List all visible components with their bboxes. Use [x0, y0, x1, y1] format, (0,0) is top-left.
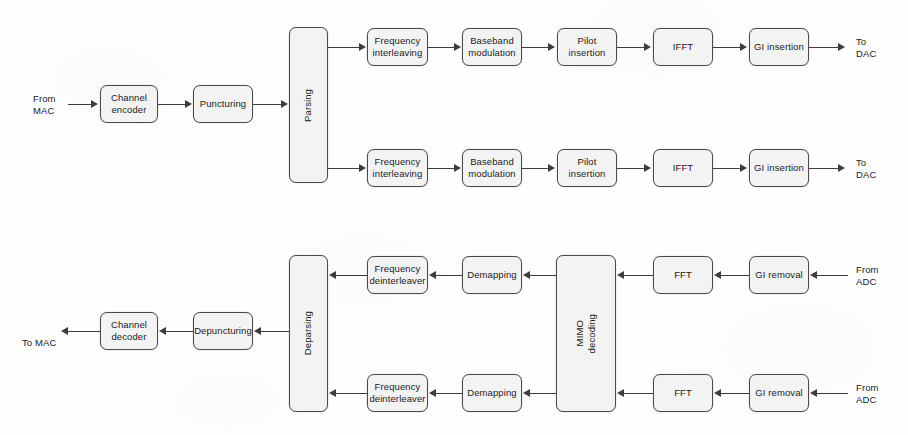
- wire-rx-bottom-fd-to-deparsing: [336, 393, 367, 394]
- arrowhead-tx-bottom-gi-to-dac: [838, 164, 845, 172]
- wire-tx-bottom-bm-to-pilot: [522, 168, 549, 169]
- tx-block-ifft-top-label: IFFT: [670, 41, 696, 53]
- tx-output-label-to-dac-bottom: To DAC: [856, 157, 876, 182]
- wire-tx-bottom-fi-to-bm: [428, 168, 455, 169]
- rx-block-frequency-deinterleaver-bottom[interactable]: Frequency deinterleaver: [367, 374, 428, 412]
- wire-rx-bottom-mimo-to-demapping: [530, 393, 556, 394]
- arrowhead-rx-top-demapping-to-fd: [429, 271, 436, 279]
- wire-tx-top-ifft-to-gi: [713, 47, 741, 48]
- tx-block-ifft-bottom[interactable]: IFFT: [653, 149, 713, 187]
- arrowhead-rx-bottom-mimo-to-demapping: [523, 389, 530, 397]
- tx-block-pilot-insertion-bottom[interactable]: Pilot insertion: [557, 149, 617, 187]
- arrowhead-tx-top-pilot-to-ifft: [644, 43, 651, 51]
- arrowhead-tx-bottom-pilot-to-ifft: [644, 164, 651, 172]
- arrowhead-tx-bottom-ifft-to-gi: [740, 164, 747, 172]
- wire-deparsing-to-depuncturing: [261, 331, 289, 332]
- tx-block-gi-insertion-top[interactable]: GI insertion: [749, 28, 809, 66]
- tx-block-pilot-insertion-top[interactable]: Pilot insertion: [557, 28, 617, 66]
- tx-block-puncturing[interactable]: Puncturing: [193, 85, 253, 123]
- tx-block-channel-encoder[interactable]: Channel encoder: [100, 85, 158, 123]
- rx-block-deparsing[interactable]: Deparsing: [289, 255, 328, 412]
- wire-rx-top-fd-to-deparsing: [336, 275, 367, 276]
- wire-rx-top-mimo-to-demapping: [530, 275, 556, 276]
- rx-block-gi-removal-bottom[interactable]: GI removal: [749, 374, 809, 412]
- rx-block-frequency-deinterleaver-bottom-label: Frequency deinterleaver: [366, 381, 428, 405]
- arrowhead-tx-bottom-fi-to-bm: [454, 164, 461, 172]
- tx-block-ifft-top[interactable]: IFFT: [653, 28, 713, 66]
- wire-rx-top-demapping-to-fd: [436, 275, 462, 276]
- wire-frommac-to-channel-encoder: [68, 104, 92, 105]
- wire-depuncturing-to-channel-decoder: [166, 331, 193, 332]
- arrowhead-rx-bottom-fft-to-mimo: [617, 389, 624, 397]
- arrowhead-tx-top-ifft-to-gi: [740, 43, 747, 51]
- rx-block-gi-removal-top-label: GI removal: [752, 269, 805, 281]
- rx-block-gi-removal-top[interactable]: GI removal: [749, 256, 809, 294]
- tx-block-frequency-interleaving-bottom[interactable]: Frequency interleaving: [367, 149, 428, 187]
- arrowhead-rx-top-gi-to-fft: [714, 271, 721, 279]
- arrowhead-frommac-to-channel-encoder: [91, 100, 98, 108]
- rx-block-demapping-top-label: Demapping: [464, 269, 520, 281]
- tx-block-baseband-modulation-top[interactable]: Baseband modulation: [462, 28, 522, 66]
- rx-block-fft-top[interactable]: FFT: [653, 256, 713, 294]
- block-diagram-canvas: From MAC Channel encoder Puncturing Pars…: [0, 0, 908, 435]
- arrowhead-depuncturing-to-channel-decoder: [159, 327, 166, 335]
- rx-block-frequency-deinterleaver-top[interactable]: Frequency deinterleaver: [367, 256, 428, 294]
- wire-parsing-to-freq-interleaving-bottom: [328, 168, 360, 169]
- wire-channel-decoder-to-tomac: [68, 331, 100, 332]
- wire-tx-bottom-ifft-to-gi: [713, 168, 741, 169]
- arrowhead-rx-top-fft-to-mimo: [617, 271, 624, 279]
- tx-block-baseband-modulation-bottom[interactable]: Baseband modulation: [462, 149, 522, 187]
- wire-tx-bottom-gi-to-dac: [809, 168, 841, 169]
- tx-block-channel-encoder-label: Channel encoder: [108, 92, 150, 116]
- rx-block-demapping-top[interactable]: Demapping: [462, 256, 522, 294]
- arrowhead-deparsing-to-depuncturing: [254, 327, 261, 335]
- wire-rx-bottom-demapping-to-fd: [436, 393, 462, 394]
- arrowhead-tx-bottom-bm-to-pilot: [548, 164, 555, 172]
- arrowhead-tx-top-fi-to-bm: [454, 43, 461, 51]
- arrowhead-rx-top-mimo-to-demapping: [523, 271, 530, 279]
- arrowhead-tx-top-gi-to-dac: [838, 43, 845, 51]
- tx-block-parsing[interactable]: Parsing: [289, 27, 328, 183]
- arrowhead-rx-bottom-gi-to-fft: [714, 389, 721, 397]
- rx-block-demapping-bottom[interactable]: Demapping: [462, 374, 522, 412]
- wire-tx-top-pilot-to-ifft: [617, 47, 645, 48]
- rx-block-channel-decoder[interactable]: Channel decoder: [100, 312, 158, 350]
- wire-rx-top-fft-to-mimo: [624, 275, 653, 276]
- tx-block-frequency-interleaving-bottom-label: Frequency interleaving: [370, 156, 426, 180]
- wire-parsing-to-freq-interleaving-top: [328, 47, 360, 48]
- rx-block-gi-removal-bottom-label: GI removal: [752, 387, 805, 399]
- tx-block-baseband-modulation-top-label: Baseband modulation: [465, 35, 518, 59]
- rx-block-depuncturing-label: Depuncturing: [191, 325, 255, 337]
- tx-block-frequency-interleaving-top-label: Frequency interleaving: [370, 35, 426, 59]
- rx-block-mimo-decoding-label: MIMO decoding: [574, 311, 598, 356]
- arrowhead-rx-top-fd-to-deparsing: [329, 271, 336, 279]
- rx-output-label-to-mac: To MAC: [22, 337, 56, 349]
- rx-block-depuncturing[interactable]: Depuncturing: [193, 312, 253, 350]
- arrowhead-rx-bottom-demapping-to-fd: [429, 389, 436, 397]
- rx-input-label-from-adc-bottom: From ADC: [856, 382, 879, 407]
- wire-tx-bottom-pilot-to-ifft: [617, 168, 645, 169]
- wire-puncturing-to-parsing: [253, 104, 282, 105]
- wire-tx-top-fi-to-bm: [428, 47, 455, 48]
- tx-block-baseband-modulation-bottom-label: Baseband modulation: [465, 156, 518, 180]
- arrowhead-parsing-to-freq-interleaving-top: [359, 43, 366, 51]
- wire-tx-top-bm-to-pilot: [522, 47, 549, 48]
- rx-block-frequency-deinterleaver-top-label: Frequency deinterleaver: [366, 263, 428, 287]
- tx-block-parsing-label: Parsing: [302, 86, 314, 125]
- wire-tx-top-gi-to-dac: [809, 47, 841, 48]
- tx-block-ifft-bottom-label: IFFT: [670, 162, 696, 174]
- arrowhead-puncturing-to-parsing: [281, 100, 288, 108]
- wire-rx-bottom-adc-to-gi: [817, 393, 848, 394]
- tx-block-pilot-insertion-top-label: Pilot insertion: [566, 35, 609, 59]
- rx-block-fft-top-label: FFT: [671, 269, 695, 281]
- tx-block-puncturing-label: Puncturing: [197, 98, 249, 110]
- wire-rx-top-gi-to-fft: [721, 275, 749, 276]
- arrowhead-channel-decoder-to-tomac: [61, 327, 68, 335]
- rx-block-fft-bottom[interactable]: FFT: [653, 374, 713, 412]
- tx-block-frequency-interleaving-top[interactable]: Frequency interleaving: [367, 28, 428, 66]
- wire-rx-top-adc-to-gi: [817, 275, 848, 276]
- rx-block-mimo-decoding[interactable]: MIMO decoding: [556, 255, 616, 412]
- arrowhead-channel-encoder-to-puncturing: [185, 100, 192, 108]
- tx-block-gi-insertion-bottom[interactable]: GI insertion: [749, 149, 809, 187]
- arrowhead-rx-bottom-fd-to-deparsing: [329, 389, 336, 397]
